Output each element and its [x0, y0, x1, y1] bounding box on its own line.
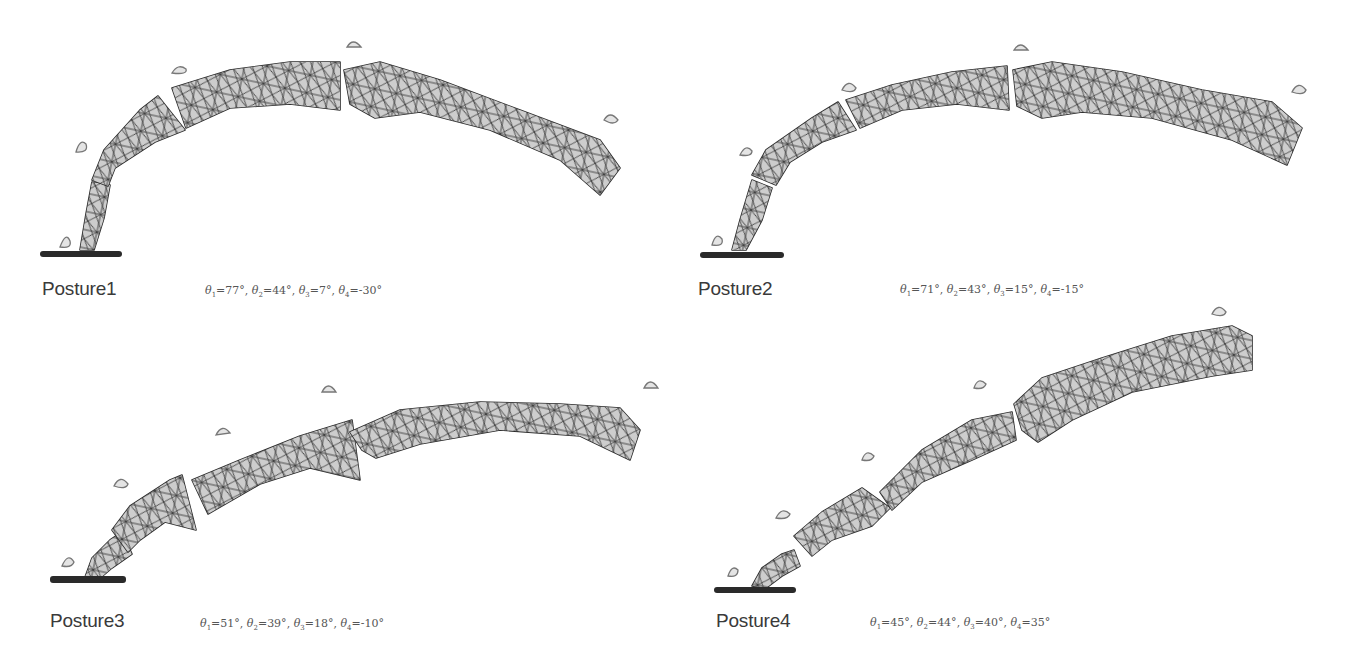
- posture2-label: Posture2: [698, 278, 772, 300]
- posture3-panel: Posture3 θ1=51°, θ2=39°, θ3=18°, θ4=-10°: [0, 320, 672, 657]
- posture4-finger-mesh: [672, 300, 1345, 657]
- marker-icon: [1292, 85, 1306, 93]
- posture2-angles: θ1=71°, θ2=43°, θ3=15°, θ4=-15°: [900, 283, 1084, 298]
- marker-icon: [712, 236, 722, 245]
- posture4-angles: θ1=45°, θ2=44°, θ3=40°, θ4=35°: [870, 616, 1050, 631]
- marker-icon: [114, 479, 128, 487]
- marker-icon: [62, 558, 74, 567]
- base-bar: [714, 587, 796, 593]
- posture1-finger-mesh: [0, 0, 672, 320]
- marker-icon: [604, 115, 618, 123]
- marker-icon: [1014, 45, 1028, 50]
- marker-icon: [776, 511, 790, 519]
- base-bar: [50, 576, 126, 583]
- posture4-panel: Posture4 θ1=45°, θ2=44°, θ3=40°, θ4=35°: [672, 300, 1345, 657]
- marker-icon: [862, 453, 874, 461]
- marker-icon: [347, 42, 361, 47]
- marker-icon: [60, 237, 70, 247]
- marker-icon: [172, 67, 186, 74]
- marker-icon: [76, 142, 87, 152]
- marker-icon: [322, 386, 336, 392]
- marker-icon: [974, 381, 986, 389]
- posture1-angles: θ1=77°, θ2=44°, θ3=7°, θ4=-30°: [205, 284, 382, 299]
- posture3-finger-mesh: [0, 320, 672, 657]
- posture4-label: Posture4: [716, 610, 790, 632]
- base-bar: [700, 252, 784, 258]
- base-bar: [40, 251, 122, 257]
- posture3-angles: θ1=51°, θ2=39°, θ3=18°, θ4=-10°: [200, 617, 384, 632]
- marker-icon: [1212, 307, 1226, 315]
- posture3-label: Posture3: [50, 610, 124, 632]
- marker-icon: [644, 382, 658, 388]
- posture1-panel: Posture1 θ1=77°, θ2=44°, θ3=7°, θ4=-30°: [0, 0, 672, 320]
- posture2-panel: Posture2 θ1=71°, θ2=43°, θ3=15°, θ4=-15°: [672, 0, 1345, 320]
- marker-icon: [842, 83, 856, 91]
- marker-icon: [740, 148, 752, 156]
- posture2-finger-mesh: [672, 0, 1345, 320]
- marker-icon: [728, 568, 738, 576]
- posture1-label: Posture1: [42, 278, 116, 300]
- marker-icon: [216, 428, 230, 435]
